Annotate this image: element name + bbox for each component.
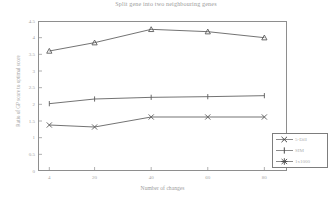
x-tick-label: 60: [198, 175, 218, 180]
chart-container: Split gene into two neighbouring genes R…: [0, 0, 332, 200]
y-tick-label: 4: [21, 35, 35, 40]
x-tick-label: 20: [85, 175, 105, 180]
x-tick-label: 80: [254, 175, 274, 180]
y-tick-label: 0: [21, 169, 35, 174]
y-tick-label: 4.5: [21, 19, 35, 24]
plot-svg: [38, 21, 287, 171]
cross-icon: [275, 134, 294, 145]
legend-item[interactable]: 5-Dill: [273, 134, 327, 145]
star-icon: [275, 156, 294, 167]
y-tick-label: 1.5: [21, 119, 35, 124]
plus-icon: [275, 145, 294, 156]
y-tick-label: 1: [21, 135, 35, 140]
legend-item[interactable]: SIM: [273, 145, 327, 156]
y-tick-label: 2: [21, 102, 35, 107]
legend-item[interactable]: 1x1000: [273, 156, 327, 167]
legend-label: 1x1000: [295, 159, 310, 164]
chart-legend: 5-Dill SIM 1x1000: [272, 133, 328, 168]
legend-label: SIM: [295, 148, 304, 153]
y-tick-label: 0.5: [21, 152, 35, 157]
x-tick-label: 4: [39, 175, 59, 180]
y-tick-label: 3: [21, 69, 35, 74]
legend-label: 5-Dill: [295, 137, 307, 142]
x-tick-label: 40: [141, 175, 161, 180]
chart-title: Split gene into two neighbouring genes: [0, 1, 332, 7]
x-axis-title: Number of changes: [38, 185, 287, 191]
y-tick-label: 2.5: [21, 85, 35, 90]
y-tick-label: 3.5: [21, 52, 35, 57]
